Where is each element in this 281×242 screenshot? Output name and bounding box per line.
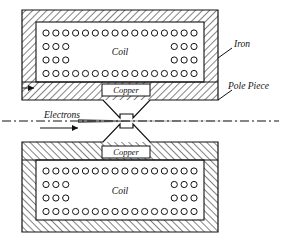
- coil-conductor: [82, 30, 88, 36]
- coil-conductor: [181, 30, 187, 36]
- pole-piece-label: Pole Piece: [227, 81, 269, 91]
- coil-conductor: [112, 168, 118, 174]
- coil-conductor: [53, 181, 59, 187]
- coil-conductor: [112, 208, 118, 214]
- diagram-canvas: Coil Copper Coil Copper Electrons Iron: [0, 0, 281, 242]
- coil-conductor: [73, 30, 79, 36]
- coil-conductor: [53, 195, 59, 201]
- coil-conductor: [171, 43, 177, 49]
- coil-conductor: [142, 70, 148, 76]
- coil-conductor: [181, 43, 187, 49]
- copper-label-bottom: Copper: [113, 147, 139, 157]
- coil-conductor: [171, 70, 177, 76]
- coil-conductor: [132, 70, 138, 76]
- coil-conductor: [92, 70, 98, 76]
- coil-conductor: [161, 30, 167, 36]
- coil-conductor: [151, 168, 157, 174]
- coil-conductor: [82, 208, 88, 214]
- coil-conductor: [171, 208, 177, 214]
- coil-conductor: [63, 208, 69, 214]
- coil-conductor: [63, 181, 69, 187]
- coil-conductor: [132, 30, 138, 36]
- coil-conductor: [63, 57, 69, 63]
- coil-conductor: [181, 168, 187, 174]
- coil-conductor: [73, 70, 79, 76]
- coil-conductor: [132, 208, 138, 214]
- coil-conductor: [43, 195, 49, 201]
- coil-conductor: [191, 30, 197, 36]
- coil-conductor: [181, 57, 187, 63]
- coil-conductor: [82, 168, 88, 174]
- coil-conductor: [43, 181, 49, 187]
- coil-conductor: [92, 208, 98, 214]
- coil-conductor: [63, 195, 69, 201]
- magnetic-lens-diagram: Coil Copper Coil Copper Electrons Iron: [0, 0, 281, 242]
- coil-conductor: [171, 30, 177, 36]
- coil-conductor: [161, 208, 167, 214]
- coil-conductor: [92, 30, 98, 36]
- coil-conductor: [171, 195, 177, 201]
- coil-conductor: [43, 168, 49, 174]
- coil-conductor: [171, 57, 177, 63]
- coil-conductor: [142, 30, 148, 36]
- coil-conductor: [53, 168, 59, 174]
- coil-conductor: [82, 70, 88, 76]
- coil-conductor: [191, 168, 197, 174]
- coil-conductor: [122, 208, 128, 214]
- coil-conductor: [63, 70, 69, 76]
- coil-conductor: [181, 208, 187, 214]
- coil-conductor: [191, 43, 197, 49]
- coil-conductor: [53, 43, 59, 49]
- coil-conductor: [181, 70, 187, 76]
- coil-conductor: [63, 168, 69, 174]
- coil-label-bottom: Coil: [112, 186, 129, 196]
- coil-conductor: [102, 208, 108, 214]
- coil-conductor: [53, 30, 59, 36]
- electrons-label: Electrons: [43, 110, 80, 120]
- coil-conductor: [43, 208, 49, 214]
- coil-conductor: [63, 43, 69, 49]
- coil-conductor: [191, 208, 197, 214]
- coil-conductor: [171, 181, 177, 187]
- coil-conductor: [43, 43, 49, 49]
- coil-conductor: [112, 30, 118, 36]
- coil-conductor: [63, 30, 69, 36]
- coil-conductor: [73, 168, 79, 174]
- coil-conductor: [191, 195, 197, 201]
- coil-conductor: [142, 208, 148, 214]
- coil-conductor: [43, 30, 49, 36]
- coil-conductor: [191, 70, 197, 76]
- coil-conductor: [102, 168, 108, 174]
- coil-conductor: [191, 181, 197, 187]
- copper-label-top: Copper: [113, 85, 139, 95]
- coil-conductor: [112, 70, 118, 76]
- coil-conductor: [181, 195, 187, 201]
- coil-conductor: [53, 57, 59, 63]
- coil-conductor: [122, 70, 128, 76]
- coil-conductor: [43, 70, 49, 76]
- coil-conductor: [171, 168, 177, 174]
- coil-conductor: [102, 30, 108, 36]
- coil-conductor: [151, 208, 157, 214]
- coil-conductor: [161, 70, 167, 76]
- coil-conductor: [102, 70, 108, 76]
- coil-conductor: [181, 181, 187, 187]
- coil-conductor: [142, 168, 148, 174]
- coil-label-top: Coil: [112, 47, 129, 57]
- coil-conductor: [191, 57, 197, 63]
- coil-conductor: [53, 70, 59, 76]
- coil-conductor: [132, 168, 138, 174]
- coil-conductor: [151, 30, 157, 36]
- coil-conductor: [151, 70, 157, 76]
- coil-conductor: [43, 57, 49, 63]
- iron-label: Iron: [233, 39, 250, 49]
- coil-conductor: [161, 168, 167, 174]
- coil-conductor: [122, 30, 128, 36]
- coil-conductor: [122, 168, 128, 174]
- coil-conductor: [53, 208, 59, 214]
- coil-conductor: [92, 168, 98, 174]
- coil-conductor: [73, 208, 79, 214]
